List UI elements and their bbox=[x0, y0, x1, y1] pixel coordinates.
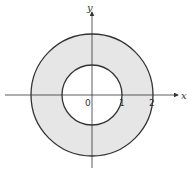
origin-label: 0 bbox=[85, 98, 91, 108]
tick-label-1: 1 bbox=[119, 98, 125, 108]
y-axis-label: y bbox=[86, 2, 93, 13]
tick-label-2: 2 bbox=[149, 98, 155, 108]
annulus-diagram: x y 0 1 2 bbox=[0, 0, 188, 170]
x-axis-label: x bbox=[181, 90, 187, 101]
